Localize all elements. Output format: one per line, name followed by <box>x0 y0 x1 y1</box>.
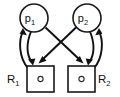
resource-r1[interactable]: R1 <box>7 66 54 92</box>
place-p1[interactable]: p1 <box>20 4 48 32</box>
edge-p2-to-r1 <box>39 28 77 64</box>
edge-p2-to-r1-line <box>42 28 76 61</box>
edge-r2-to-p2-line <box>94 31 102 69</box>
edge-p2-to-r2-arrowhead <box>86 59 93 66</box>
edge-p1-to-r1-line <box>27 32 31 63</box>
resource-r1-token <box>38 76 43 81</box>
resource-r2-label: R2 <box>98 73 110 88</box>
petri-net-canvas: p1 p2 R1 R2 <box>0 0 120 97</box>
edge-r2-to-p2 <box>94 28 102 68</box>
edge-p1-to-r1 <box>27 32 35 66</box>
resource-r2[interactable]: R2 <box>68 66 110 92</box>
edge-p1-to-r1-arrowhead <box>28 59 35 66</box>
petri-net-diagram: p1 p2 R1 R2 <box>0 0 120 97</box>
edge-p1-to-r2 <box>46 28 84 64</box>
edge-p2-to-r2-line <box>90 32 94 63</box>
edge-p1-to-r2-line <box>46 28 81 61</box>
resource-r2-token <box>79 76 84 81</box>
edge-p2-to-r2 <box>86 32 94 66</box>
resource-r1-label: R1 <box>7 73 19 88</box>
place-p2[interactable]: p2 <box>73 4 101 32</box>
